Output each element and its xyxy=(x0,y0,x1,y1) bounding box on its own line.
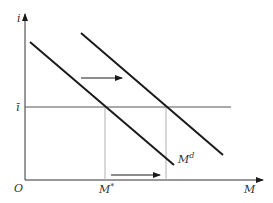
money-market-diagram: i ī O M* Md M xyxy=(0,0,273,203)
i-bar-label: ī xyxy=(16,101,20,114)
x-axis-label: M xyxy=(243,183,256,196)
y-axis-label: i xyxy=(17,12,21,25)
md-label: Md xyxy=(177,151,194,166)
money-demand-original xyxy=(30,42,174,165)
money-demand-shifted xyxy=(81,33,223,155)
m-star-label: M* xyxy=(98,182,114,196)
origin-label: O xyxy=(14,182,23,195)
